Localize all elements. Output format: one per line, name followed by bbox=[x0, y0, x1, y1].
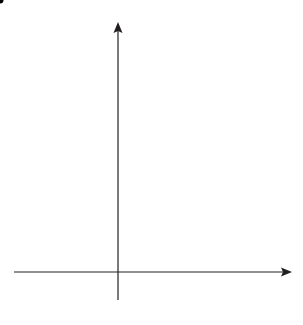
coordinate-grid bbox=[0, 0, 303, 325]
point-c-marker bbox=[0, 0, 4, 4]
